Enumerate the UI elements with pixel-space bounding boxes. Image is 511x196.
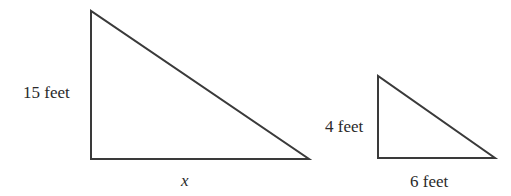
large-triangle-height-label: 15 feet <box>23 84 70 101</box>
triangles-graphic <box>0 0 511 196</box>
similar-triangles-diagram: 15 feet x 4 feet 6 feet <box>0 0 511 196</box>
large-triangle-base-label: x <box>181 172 189 189</box>
small-triangle-height-label: 4 feet <box>325 118 363 135</box>
small-right-triangle <box>378 76 495 158</box>
large-right-triangle <box>91 11 309 159</box>
small-triangle-base-label: 6 feet <box>410 173 448 190</box>
